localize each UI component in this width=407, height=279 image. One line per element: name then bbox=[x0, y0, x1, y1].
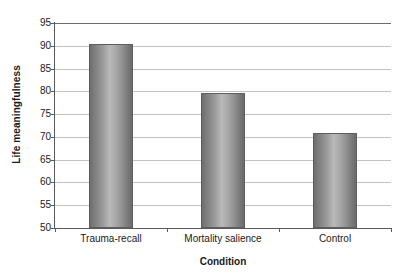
x-tick-label: Trauma-recall bbox=[80, 233, 141, 244]
x-tick-label: Mortality salience bbox=[184, 233, 261, 244]
bar bbox=[201, 93, 245, 228]
y-axis-title: Life meaningfulness bbox=[6, 0, 26, 229]
y-tick-label: 50 bbox=[29, 223, 51, 233]
x-tick-label: Control bbox=[319, 233, 351, 244]
y-tick-label: 80 bbox=[29, 86, 51, 96]
y-tick-label: 70 bbox=[29, 132, 51, 142]
x-axis-line bbox=[55, 228, 392, 229]
plot-area bbox=[55, 23, 391, 228]
x-tick-mark bbox=[167, 228, 168, 232]
y-axis-ticks: 50556065707580859095 bbox=[25, 23, 51, 228]
y-axis-line bbox=[54, 22, 55, 229]
y-tick-label: 55 bbox=[29, 200, 51, 210]
bar-chart: Life meaningfulness 50556065707580859095… bbox=[0, 0, 407, 279]
x-tick-mark bbox=[279, 228, 280, 232]
x-axis-category-labels: Trauma-recallMortality salienceControl bbox=[55, 233, 392, 249]
y-tick-label: 95 bbox=[29, 18, 51, 28]
x-tick-mark bbox=[391, 228, 392, 232]
bar bbox=[89, 44, 133, 229]
y-tick-label: 60 bbox=[29, 177, 51, 187]
plot-top-border bbox=[55, 23, 391, 24]
x-axis-title: Condition bbox=[55, 256, 391, 267]
bar bbox=[313, 133, 357, 228]
y-axis-title-label: Life meaningfulness bbox=[11, 65, 22, 164]
y-tick-label: 90 bbox=[29, 41, 51, 51]
y-tick-label: 75 bbox=[29, 109, 51, 119]
x-tick-mark bbox=[55, 228, 56, 232]
y-tick-label: 85 bbox=[29, 64, 51, 74]
y-tick-label: 65 bbox=[29, 155, 51, 165]
